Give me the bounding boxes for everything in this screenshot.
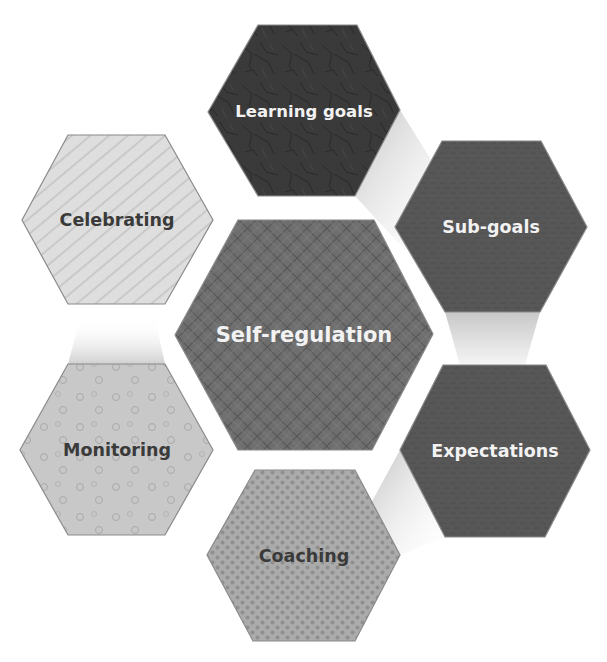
- hexagon-monitoring: Monitoring: [20, 364, 213, 535]
- hexagon-celebrating: Celebrating: [22, 135, 213, 304]
- hexagon-sub-goals-label: Sub-goals: [442, 217, 540, 237]
- hexagon-self-regulation-label: Self-regulation: [216, 323, 393, 347]
- hexagon-learning-goals-label: Learning goals: [235, 102, 373, 121]
- hexagon-monitoring-label: Monitoring: [63, 440, 171, 460]
- center-hexagon-self-regulation: Self-regulation: [175, 220, 433, 450]
- hexagon-celebrating-label: Celebrating: [60, 210, 175, 230]
- diagram-canvas: Self-regulation Learning goalsSub-goalsE…: [0, 0, 607, 662]
- connector-monitoring-to-celebrating: [68, 318, 165, 364]
- connector-sub-goals-to-expectations: [445, 312, 540, 365]
- hexagon-diagram: Self-regulation Learning goalsSub-goalsE…: [0, 0, 607, 662]
- hexagon-coaching-label: Coaching: [259, 546, 350, 566]
- hexagon-expectations-label: Expectations: [431, 441, 558, 461]
- hexagon-coaching: Coaching: [207, 470, 400, 641]
- hexagon-self-regulation: Self-regulation: [175, 220, 433, 450]
